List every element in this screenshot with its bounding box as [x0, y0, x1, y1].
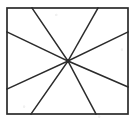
- line-figure-svg: [0, 0, 134, 124]
- convergence-point: [66, 59, 70, 63]
- line-figure-canvas: [0, 0, 134, 124]
